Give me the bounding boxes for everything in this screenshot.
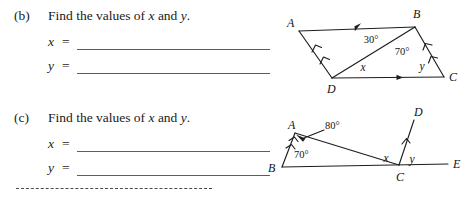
angle-label-70: 70° [395, 46, 410, 57]
question-b-label: (b) [14, 8, 30, 24]
figure-triangle-abc-ray-cd: A B C D E 80° 70° x y [262, 100, 465, 192]
question-b-heading: (b) Find the values of x and y. [0, 8, 275, 28]
leader-line-80 [304, 130, 324, 138]
unknown-label-x2: x [382, 152, 389, 164]
segment-be-baseline [282, 164, 448, 167]
answer-b-x-equals: = [62, 34, 70, 50]
section-divider-dashed [16, 188, 212, 189]
vertex-label-d: D [326, 82, 336, 96]
vertex-label-e2: E [452, 157, 461, 171]
unknown-label-x: x [359, 61, 366, 73]
question-c-prompt-part1: Find the values of [48, 110, 149, 125]
question-b-prompt: Find the values of x and y. [48, 8, 190, 24]
answer-b-x-variable: x [48, 34, 54, 50]
question-c-label: (c) [14, 110, 29, 126]
question-b-prompt-part3: . [187, 8, 190, 23]
answer-c-x-equals: = [62, 136, 70, 152]
unknown-label-y2: y [408, 153, 415, 166]
answer-b-x-blank-line[interactable] [77, 49, 270, 50]
question-b-prompt-part1: Find the values of [48, 8, 149, 23]
vertex-label-a: A [286, 16, 295, 30]
answer-b-y-equals: = [62, 58, 70, 74]
worksheet-page: (b) Find the values of x and y. x = y = … [0, 0, 465, 202]
answer-c-y-variable: y [48, 160, 54, 176]
question-block-c: (c) Find the values of x and y. x = y = [0, 110, 275, 130]
answer-row-b-y[interactable]: y = [48, 58, 270, 80]
arrowhead-bc-double-2 [429, 57, 438, 64]
vertex-label-c: C [449, 70, 458, 84]
question-c-heading: (c) Find the values of x and y. [0, 110, 275, 130]
answer-row-b-x[interactable]: x = [48, 34, 270, 56]
angle-label-30: 30° [364, 34, 379, 45]
vertex-label-d2: D [413, 105, 423, 119]
unknown-label-y: y [418, 60, 425, 73]
angle-label-80: 80° [325, 120, 340, 131]
question-c-prompt-part2: and [155, 110, 181, 125]
answer-c-x-variable: x [48, 136, 54, 152]
arrowhead-ab-single [355, 23, 362, 31]
answer-c-x-blank-line[interactable] [77, 151, 270, 152]
vertex-label-a2: A [287, 118, 296, 132]
figure-parallelogram-abcd: A B C D 30° 70° x y [275, 0, 465, 100]
question-c-prompt-part3: . [187, 110, 190, 125]
answer-b-y-blank-line[interactable] [77, 73, 270, 74]
vertex-label-c2: C [396, 170, 405, 184]
answer-row-c-x[interactable]: x = [48, 136, 270, 158]
segment-dc [332, 77, 444, 78]
vertex-label-b2: B [268, 161, 276, 175]
arrowhead-ba-double-2 [289, 137, 298, 142]
vertex-label-b: B [413, 7, 421, 21]
segment-ad [299, 31, 332, 78]
question-block-b: (b) Find the values of x and y. x = y = [0, 8, 275, 28]
question-c-prompt: Find the values of x and y. [48, 110, 190, 126]
answer-row-c-y[interactable]: y = [48, 160, 270, 182]
angle-label-70: 70° [294, 149, 309, 160]
arrowhead-dc-single [397, 75, 404, 80]
answer-b-y-variable: y [48, 58, 54, 74]
answer-c-y-blank-line[interactable] [77, 175, 270, 176]
answer-c-y-equals: = [62, 160, 70, 176]
question-b-prompt-part2: and [155, 8, 181, 23]
